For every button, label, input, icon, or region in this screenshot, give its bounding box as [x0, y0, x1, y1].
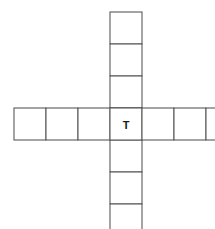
horizontal-cell [14, 108, 46, 140]
vertical-cell [110, 172, 142, 204]
cross-grid-diagram: T [0, 0, 215, 229]
horizontal-cell [46, 108, 78, 140]
horizontal-arm-group [14, 108, 215, 140]
vertical-cell [110, 44, 142, 76]
cross-grid-svg: T [0, 0, 215, 229]
horizontal-cell [174, 108, 206, 140]
vertical-cell [110, 12, 142, 44]
center-cell-label: T [123, 119, 130, 131]
horizontal-cell [142, 108, 174, 140]
vertical-cell [110, 76, 142, 108]
vertical-cell [110, 204, 142, 229]
vertical-cell [110, 140, 142, 172]
horizontal-cell [78, 108, 110, 140]
horizontal-cell [206, 108, 215, 140]
